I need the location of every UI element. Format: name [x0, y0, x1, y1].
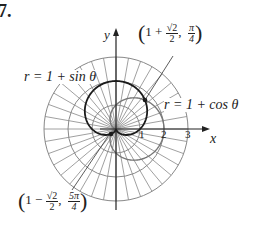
cardioids	[85, 81, 164, 160]
sin-cardioid-label: r = 1 + sin θ	[24, 70, 96, 84]
cos-cardioid-label: r = 1 + cos θ	[164, 98, 238, 112]
x-arrow-icon	[202, 126, 210, 132]
polar-figure: 7. y x 1 2 3 r = 1 + sin θ r = 1 + cos θ…	[0, 0, 275, 232]
tick-2: 2	[161, 129, 167, 140]
problem-number: 7.	[0, 2, 12, 20]
tick-3: 3	[185, 129, 191, 140]
y-axis-label: y	[104, 28, 110, 41]
y-arrow-icon	[113, 28, 119, 36]
x-axis-label: x	[210, 132, 216, 146]
axes	[100, 28, 210, 210]
point-label-5pi-over-4: (1 − √22, 5π4)	[18, 190, 87, 212]
point-label-pi-over-4: (1 + √22, π4)	[138, 22, 202, 44]
tick-1: 1	[139, 129, 145, 140]
